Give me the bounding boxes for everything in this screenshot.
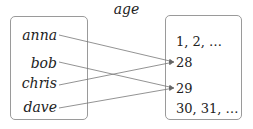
arrow-anna-to-28 — [59, 35, 174, 62]
arrow-dave-to-29 — [59, 88, 174, 108]
mapping-arrows — [0, 0, 253, 129]
arrow-chris-to-28 — [59, 62, 174, 85]
arrow-bob-to-29 — [59, 62, 174, 88]
